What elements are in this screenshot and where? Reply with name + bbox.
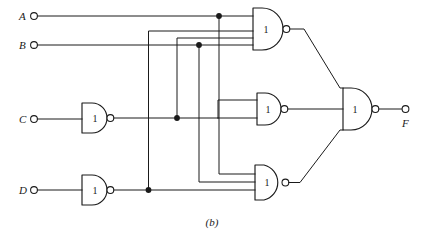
gate-label-top-nand: 1: [264, 24, 269, 35]
gate-label-bottom-nand: 1: [265, 177, 270, 188]
input-terminal-d[interactable]: D: [18, 184, 37, 196]
gate-shape-output-nand: [343, 88, 372, 130]
bubble-middle-nand: [281, 106, 288, 113]
input-label-d: D: [18, 184, 27, 196]
junction-dot-c-bar: [174, 115, 180, 121]
input-label-b: B: [19, 39, 26, 51]
bubble-top-nand: [283, 26, 290, 33]
wire-cbar-riser-to-middle-gate: [218, 100, 257, 118]
gate-label-inverter-c: 1: [93, 113, 98, 124]
input-terminal-a[interactable]: A: [18, 10, 37, 22]
input-label-a: A: [18, 10, 26, 22]
bubble-inverter-d: [107, 187, 114, 194]
input-terminal-c[interactable]: C: [19, 113, 37, 125]
terminal-circle-d[interactable]: [31, 187, 38, 194]
terminal-circle-f[interactable]: [402, 106, 409, 113]
gate-output-nand[interactable]: 1: [343, 88, 379, 130]
gate-bottom-nand[interactable]: 1: [255, 165, 289, 200]
junction-dot-d-bar: [146, 187, 152, 193]
gate-label-inverter-d: 1: [93, 185, 98, 196]
logic-circuit-diagram: A B C D 1: [0, 0, 429, 236]
terminal-circle-c[interactable]: [31, 116, 38, 123]
terminal-circle-b[interactable]: [31, 42, 38, 49]
gate-top-nand[interactable]: 1: [253, 8, 290, 50]
input-label-c: C: [19, 113, 27, 125]
wire-a-dropper-to-bottom-gate: [219, 16, 255, 174]
gate-inverter-d[interactable]: 1: [82, 175, 114, 205]
figure-canvas: A B C D 1: [0, 0, 429, 236]
bubble-output-nand: [372, 106, 379, 113]
gate-label-output-nand: 1: [353, 104, 358, 115]
output-terminal-f[interactable]: F: [401, 106, 409, 129]
bubble-bottom-nand: [282, 179, 289, 186]
output-label-f: F: [401, 117, 409, 129]
wire-b-dropper-to-bottom-gate: [199, 45, 255, 182]
figure-caption: (b): [206, 216, 219, 229]
wire-cbar-riser-to-top-gate: [177, 38, 253, 118]
wire-dbar-riser-to-top-gate: [149, 31, 254, 190]
junction-dot-b: [196, 42, 202, 48]
input-terminal-b[interactable]: B: [19, 39, 37, 51]
gate-middle-nand[interactable]: 1: [257, 93, 288, 125]
terminal-circle-a[interactable]: [31, 13, 38, 20]
gate-inverter-c[interactable]: 1: [82, 103, 114, 133]
wire-top-gate-to-output-gate: [290, 29, 343, 88]
gate-label-middle-nand: 1: [266, 104, 271, 115]
wire-bottom-gate-to-output-gate: [289, 130, 343, 183]
junction-dot-a: [216, 13, 222, 19]
bubble-inverter-c: [107, 115, 114, 122]
